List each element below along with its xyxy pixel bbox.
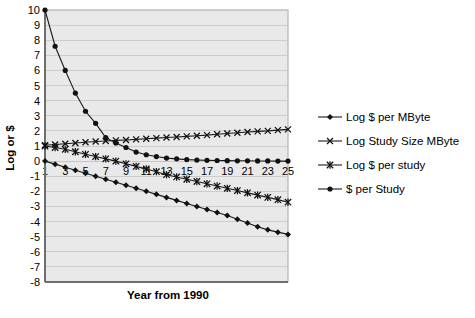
y-tick-label: 3 bbox=[34, 110, 40, 122]
y-tick-label: 2 bbox=[34, 125, 40, 137]
legend-marker-circle bbox=[327, 186, 332, 191]
legend-label: Log $ per study bbox=[346, 159, 426, 171]
x-tick-label: 19 bbox=[221, 165, 233, 177]
data-point-circle bbox=[134, 149, 139, 154]
data-point-circle bbox=[144, 152, 149, 157]
y-tick-label: -6 bbox=[30, 246, 40, 258]
y-tick-label: -3 bbox=[30, 200, 40, 212]
data-point-circle bbox=[164, 155, 169, 160]
y-tick-label: -1 bbox=[30, 170, 40, 182]
y-tick-label: 5 bbox=[34, 80, 40, 92]
data-point-circle bbox=[83, 109, 88, 114]
data-point-circle bbox=[103, 135, 108, 140]
data-point-circle bbox=[174, 156, 179, 161]
y-tick-label: 1 bbox=[34, 140, 40, 152]
y-tick-label: -5 bbox=[30, 231, 40, 243]
legend-label: Log Study Size MByte bbox=[346, 135, 459, 147]
data-point-circle bbox=[255, 158, 260, 163]
y-tick-label: 6 bbox=[34, 64, 40, 76]
data-point-circle bbox=[123, 145, 128, 150]
x-tick-label: 25 bbox=[282, 165, 294, 177]
data-point-circle bbox=[93, 121, 98, 126]
y-tick-label: 9 bbox=[34, 19, 40, 31]
data-point-circle bbox=[285, 159, 290, 164]
data-point-circle bbox=[265, 158, 270, 163]
chart-container: 109876543210-1-2-3-4-5-6-7-8 13579111315… bbox=[0, 0, 475, 318]
y-tick-label: 7 bbox=[34, 49, 40, 61]
data-point-circle bbox=[275, 159, 280, 164]
data-point-circle bbox=[73, 91, 78, 96]
y-tick-label: 0 bbox=[34, 155, 40, 167]
y-tick-label: -7 bbox=[30, 261, 40, 273]
y-tick-label: 8 bbox=[34, 34, 40, 46]
data-point-circle bbox=[63, 68, 68, 73]
x-tick-label: 15 bbox=[181, 165, 193, 177]
x-axis-title: Year from 1990 bbox=[127, 289, 209, 301]
y-tick-label: 10 bbox=[28, 4, 40, 16]
x-tick-label: 23 bbox=[262, 165, 274, 177]
data-point-circle bbox=[184, 157, 189, 162]
data-point-circle bbox=[204, 158, 209, 163]
data-point-circle bbox=[225, 158, 230, 163]
data-point-circle bbox=[235, 158, 240, 163]
data-point-circle bbox=[113, 140, 118, 145]
y-tick-label: -2 bbox=[30, 185, 40, 197]
y-tick-label: -8 bbox=[30, 276, 40, 288]
data-point-circle bbox=[215, 158, 220, 163]
x-tick-label: 7 bbox=[103, 165, 109, 177]
y-tick-label: 4 bbox=[34, 95, 40, 107]
y-axis-title: Log or $ bbox=[4, 125, 16, 171]
data-point-circle bbox=[53, 44, 58, 49]
data-point-circle bbox=[245, 158, 250, 163]
data-point-circle bbox=[194, 157, 199, 162]
x-tick-label: 17 bbox=[201, 165, 213, 177]
legend-label: $ per Study bbox=[346, 183, 405, 195]
data-point-circle bbox=[42, 7, 47, 12]
x-tick-label: 21 bbox=[241, 165, 253, 177]
line-chart: 109876543210-1-2-3-4-5-6-7-8 13579111315… bbox=[0, 0, 475, 318]
data-point-circle bbox=[154, 154, 159, 159]
legend-label: Log $ per MByte bbox=[346, 111, 430, 123]
y-tick-label: -4 bbox=[30, 216, 40, 228]
